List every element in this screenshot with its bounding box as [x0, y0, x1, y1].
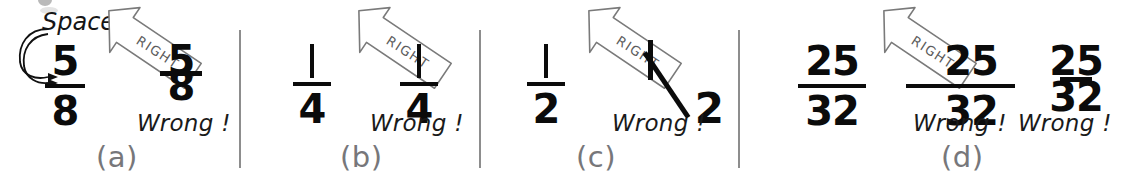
panel-a-correct-denominator: 8 [52, 91, 79, 131]
panel-label-b: (b) [340, 140, 383, 174]
panel-b-correct-fraction: 4 [293, 44, 331, 129]
panel-d-wrong-1-numerator: 25 [944, 41, 998, 81]
panel-divider-3 [738, 30, 740, 168]
panel-d-correct-denominator: 32 [805, 91, 859, 131]
panel-label-c: (c) [576, 140, 616, 174]
panel-a-correct-fraction: 5 8 [45, 41, 85, 131]
panel-c-wrong-solidus [643, 51, 691, 118]
fraction-spacing-figure: Spaces 5 8 RIGHT 5 8 Wrong ! (a) 4 [0, 0, 1133, 190]
panel-c-correct-denominator: 2 [533, 89, 560, 129]
panel-b-wrong-note: Wrong ! [370, 110, 464, 136]
cropped-artifact-top [38, 0, 52, 6]
panel-divider-1 [239, 30, 241, 168]
panel-a-wrong-denominator: 8 [168, 66, 195, 106]
panel-d-wrong-2-note: Wrong ! [1018, 110, 1112, 136]
panel-divider-2 [479, 30, 481, 168]
panel-b-wrong-numerator [417, 44, 421, 78]
panel-d-correct-numerator: 25 [805, 41, 859, 81]
right-banner-arrow-b: RIGHT [330, 14, 460, 90]
panel-c-wrong-note: Wrong ! [612, 110, 706, 136]
panel-a-correct-numerator: 5 [52, 41, 79, 81]
panel-label-a: (a) [96, 140, 138, 174]
panel-d-wrong-fraction-2: 25 32 [1042, 41, 1110, 117]
panel-a-wrong-note: Wrong ! [137, 110, 231, 136]
panel-c-correct-numerator [544, 44, 548, 78]
panel-b-correct-denominator: 4 [299, 89, 326, 129]
panel-label-d: (d) [941, 140, 984, 174]
panel-b-correct-numerator [310, 44, 314, 78]
panel-a-wrong-fraction: 5 8 [160, 40, 202, 106]
panel-d-wrong-1-note: Wrong ! [913, 110, 1007, 136]
